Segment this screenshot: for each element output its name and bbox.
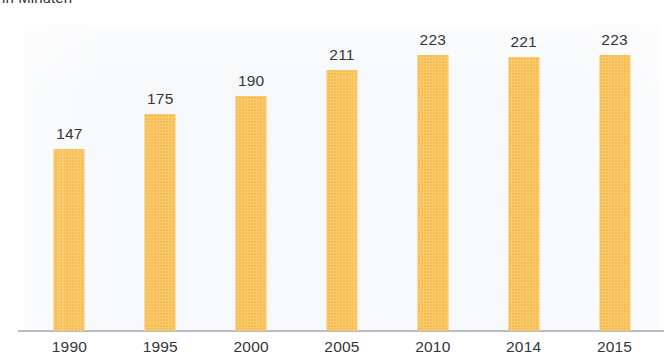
bar[interactable] [145, 114, 176, 331]
bar[interactable] [327, 70, 358, 331]
category-axis: 1990199520002005201020142015 [0, 336, 670, 363]
category-label: 2014 [478, 336, 570, 358]
bar[interactable] [54, 149, 85, 331]
category-label: 1990 [23, 336, 115, 358]
bar-group: 223 [387, 0, 479, 331]
bar-value-label: 147 [56, 126, 82, 142]
category-label: 2010 [387, 336, 479, 358]
bar-value-label: 211 [329, 47, 354, 63]
bar-value-label: 190 [238, 73, 264, 89]
bar-group: 175 [114, 0, 206, 331]
bar-chart: in Minuten 147175190211223221223 1990199… [0, 0, 670, 363]
bar-group: 221 [478, 0, 570, 331]
bar[interactable] [599, 55, 630, 331]
bar-value-label: 175 [147, 91, 173, 107]
category-label: 1995 [114, 336, 206, 358]
bar-group: 190 [205, 0, 297, 331]
category-label: 2005 [296, 336, 388, 358]
bar-value-label: 221 [510, 34, 536, 50]
bar[interactable] [236, 96, 267, 331]
bar-group: 211 [296, 0, 388, 331]
bars-layer: 147175190211223221223 [0, 0, 670, 331]
bar-group: 223 [569, 0, 661, 331]
bar-group: 147 [23, 0, 115, 331]
category-label: 2000 [205, 336, 297, 358]
category-label: 2015 [569, 336, 661, 358]
bar[interactable] [508, 57, 539, 331]
bar-value-label: 223 [601, 32, 627, 48]
bar[interactable] [417, 55, 448, 331]
bar-value-label: 223 [420, 32, 446, 48]
